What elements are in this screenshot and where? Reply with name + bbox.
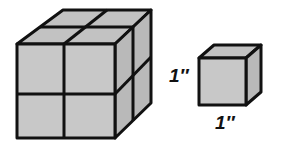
- cube-diagram: 1″ 1″: [0, 0, 282, 147]
- large-cube-front-face: [17, 44, 115, 138]
- small-cube-front-face: [199, 58, 246, 105]
- small-cube: [199, 45, 261, 105]
- height-label: 1″: [169, 66, 189, 85]
- cube-illustration: [0, 0, 282, 147]
- width-label: 1″: [215, 113, 235, 132]
- large-cube: [17, 10, 151, 138]
